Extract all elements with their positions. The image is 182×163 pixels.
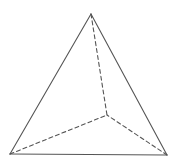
hidden-edge-bottom-left-hidden xyxy=(10,115,107,154)
visible-edge-bottom-left-bottom-right xyxy=(10,154,167,155)
visible-edges xyxy=(10,14,167,155)
hidden-edges xyxy=(10,14,167,155)
tetrahedron-diagram xyxy=(0,0,182,163)
visible-edge-apex-bottom-left xyxy=(10,14,91,154)
hidden-edge-bottom-right-hidden xyxy=(107,115,167,155)
